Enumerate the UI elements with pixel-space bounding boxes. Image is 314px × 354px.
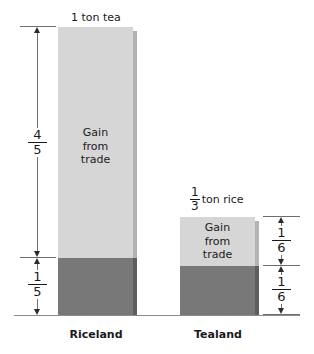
tealand-measure-upper-denominator: 6 xyxy=(272,240,291,255)
riceland-measure-upper-denominator: 5 xyxy=(28,142,47,157)
riceland-top-label: 1 ton tea xyxy=(71,11,121,25)
tealand-top-label-fraction: 1 3 xyxy=(190,186,200,213)
riceland-gain-label: Gain from trade xyxy=(58,126,133,167)
category-label-tealand: Tealand xyxy=(178,328,258,341)
tealand-top-label-text: ton rice xyxy=(202,193,244,206)
riceland-bar-shadow xyxy=(133,31,137,258)
tealand-span-lower-arrow-bottom xyxy=(278,308,284,314)
tealand-span-upper-arrow-bottom xyxy=(278,259,284,265)
tealand-bar-shadow xyxy=(255,221,259,266)
riceland-measure-upper-numerator: 4 xyxy=(28,128,47,142)
tealand-keep-segment xyxy=(180,266,255,315)
tealand-span-upper-arrow-top xyxy=(278,217,284,223)
tealand-top-label-denominator: 3 xyxy=(190,199,200,213)
tealand-gain-label: Gain from trade xyxy=(180,221,255,262)
tealand-measure-lower-numerator: 1 xyxy=(272,275,291,289)
riceland-span-upper-arrow-top xyxy=(34,27,40,33)
riceland-keep-segment xyxy=(58,258,133,315)
riceland-span-lower-arrow-top xyxy=(34,258,40,264)
riceland-measure-lower-numerator: 1 xyxy=(28,270,47,284)
riceland-span-upper-arrow-bottom xyxy=(34,251,40,257)
tealand-measure-lower: 1 6 xyxy=(272,275,291,304)
riceland-measure-upper: 4 5 xyxy=(28,128,47,157)
tealand-measure-upper: 1 6 xyxy=(272,226,291,255)
riceland-measure-lower-denominator: 5 xyxy=(28,284,47,299)
tealand-top-label: 1 3 ton rice xyxy=(190,186,244,213)
tealand-top-label-numerator: 1 xyxy=(190,186,200,199)
tealand-bar-shadow-dark xyxy=(255,266,259,315)
riceland-bar-shadow-dark xyxy=(133,258,137,315)
tealand-measure-lower-denominator: 6 xyxy=(272,289,291,304)
tealand-span-lower-arrow-top xyxy=(278,266,284,272)
category-label-riceland: Riceland xyxy=(56,328,136,341)
chart-baseline xyxy=(14,315,300,316)
production-possibilities-chart: 1 ton tea Gain from trade 4 5 1 5 1 3 to… xyxy=(0,0,314,354)
riceland-measure-lower: 1 5 xyxy=(28,270,47,299)
tealand-measure-upper-numerator: 1 xyxy=(272,226,291,240)
